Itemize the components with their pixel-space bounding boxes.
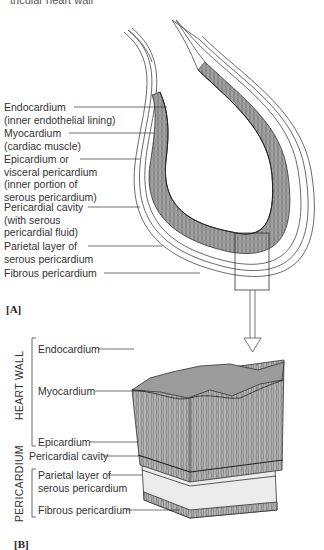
pericardium-bracket [32, 469, 36, 517]
label-b-epicardium: Epicardium [38, 436, 91, 449]
label-a-epicardium: Epicardium or visceral pericardium (inne… [4, 153, 97, 203]
group-label-pericardium: PERICARDIUM [13, 445, 25, 522]
label-b-myocardium: Myocardium [38, 385, 95, 398]
label-a-endocardium: Endocardium (inner endothelial lining) [4, 101, 116, 126]
panel-b-tag: [B] [14, 538, 29, 550]
group-label-heart-wall: HEART WALL [13, 351, 25, 420]
panel-a-tag: [A] [6, 303, 21, 315]
label-a-parietal-layer: Parietal layer of serous pericardium [4, 240, 93, 265]
label-b-endocardium: Endocardium [38, 343, 100, 356]
panel-b-block [132, 360, 284, 518]
panel-b-brackets [32, 338, 36, 517]
panel-a-ventricle [124, 20, 314, 352]
heart-wall-bracket [32, 338, 36, 446]
label-b-parietal-layer: Parietal layer of serous pericardium [38, 469, 127, 494]
label-b-pericardial-cavity: Pericardial cavity [29, 450, 108, 463]
label-a-pericardial-cavity: Pericardial cavity (with serous pericard… [4, 201, 83, 239]
label-b-fibrous-pericardium: Fibrous pericardium [38, 504, 131, 517]
label-a-myocardium: Myocardium (cardiac muscle) [4, 127, 81, 152]
label-a-fibrous-pericardium: Fibrous pericardium [4, 267, 97, 280]
